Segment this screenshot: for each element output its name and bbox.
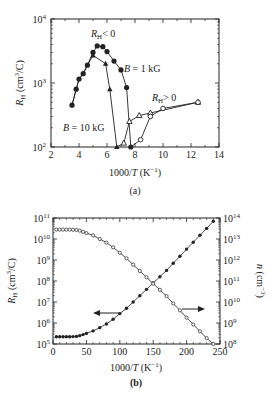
x-tick-label: 14 (214, 149, 224, 160)
data-point (121, 140, 126, 145)
chart-a-caption: (a) (129, 185, 140, 197)
data-point (111, 58, 116, 63)
data-point (212, 220, 215, 223)
data-point (74, 87, 79, 92)
series-line (141, 102, 198, 139)
x-tick-label: 150 (146, 346, 161, 357)
data-point (192, 241, 195, 244)
data-point (75, 228, 78, 231)
x-tick-label: 4 (77, 149, 82, 160)
chart-b-tick-labels: 0501001502002501051061071081091010101110… (33, 212, 241, 357)
data-point (205, 227, 208, 230)
data-point (205, 337, 208, 340)
chart-b-xlabel: 1000/T (K−1) (110, 361, 162, 374)
data-point (81, 230, 84, 233)
data-point (85, 63, 90, 68)
tick-label: 1014 (223, 212, 241, 224)
series-line (56, 230, 213, 344)
data-point (138, 269, 141, 272)
tick-label: 1010 (33, 233, 51, 245)
tick-label: 106 (37, 317, 51, 329)
data-point (85, 232, 88, 235)
tick-label: 108 (223, 338, 237, 350)
series-line (56, 221, 213, 337)
tick-label: 1013 (223, 233, 241, 245)
data-point (71, 335, 74, 338)
data-point (111, 318, 114, 321)
data-point (65, 228, 68, 231)
tick-label: 105 (37, 338, 51, 350)
data-point (152, 282, 155, 285)
data-point (172, 262, 175, 265)
data-point (158, 288, 161, 291)
tick-label: 109 (37, 254, 51, 266)
x-tick-label: 100 (112, 346, 127, 357)
data-point (185, 247, 188, 250)
x-tick-label: 8 (133, 149, 138, 160)
data-point (100, 44, 105, 49)
tick-label: 1011 (33, 212, 50, 224)
data-point (75, 335, 78, 338)
data-point (161, 106, 166, 111)
data-point (138, 294, 141, 297)
data-point (198, 330, 201, 333)
data-point (69, 103, 74, 108)
data-point (71, 228, 74, 231)
x-tick-label: 10 (158, 149, 168, 160)
data-point (105, 241, 108, 244)
x-tick-label: 200 (179, 346, 194, 357)
arrow-left-icon (93, 310, 119, 316)
arrow-right-icon (182, 306, 205, 312)
data-point (124, 85, 129, 90)
data-point (125, 307, 128, 310)
chart-b: 0501001502002501051061071081091010101110… (5, 212, 267, 389)
data-point (103, 61, 108, 66)
data-point (192, 323, 195, 326)
data-point (132, 263, 135, 266)
data-point (78, 229, 81, 232)
data-point (91, 329, 94, 332)
data-point (95, 43, 100, 48)
x-tick-label: 2 (49, 149, 54, 160)
data-point (55, 228, 58, 231)
data-point (127, 119, 132, 124)
data-point (138, 137, 143, 142)
data-point (81, 71, 86, 76)
figure: 2468101214102103104 1000/T (K−1) (a) RH … (0, 0, 272, 399)
data-point (128, 144, 133, 149)
data-point (172, 302, 175, 305)
data-point (112, 246, 115, 249)
x-tick-label: 6 (105, 149, 110, 160)
data-point (104, 49, 109, 54)
data-point (65, 335, 68, 338)
data-point (196, 100, 201, 105)
data-point (78, 334, 81, 337)
data-point (212, 342, 215, 345)
tick-label: 109 (223, 317, 237, 329)
chart-b-ylabel-right: n (cm−3) (254, 264, 267, 298)
data-point (165, 295, 168, 298)
tick-label: 1012 (223, 254, 241, 266)
chart-a-ylabel: RH (cm3/C) (13, 60, 27, 107)
data-point (118, 67, 123, 72)
data-point (76, 77, 81, 82)
data-point (118, 312, 121, 315)
data-point (158, 275, 161, 278)
tick-label: 107 (37, 296, 51, 308)
data-point (68, 228, 71, 231)
data-point (91, 234, 94, 237)
data-point (118, 251, 121, 254)
tick-label: 102 (33, 141, 47, 153)
data-point (61, 228, 64, 231)
tick-label: 1011 (223, 275, 240, 287)
data-point (148, 114, 153, 119)
annotation-b-10kg: B = 10 kG (63, 122, 104, 133)
data-point (58, 228, 61, 231)
data-point (58, 335, 61, 338)
data-point (98, 237, 101, 240)
data-point (107, 86, 112, 91)
data-point (105, 322, 108, 325)
x-tick-label: 50 (81, 346, 91, 357)
chart-b-caption: (b) (130, 377, 142, 389)
x-tick-label: 0 (51, 346, 56, 357)
